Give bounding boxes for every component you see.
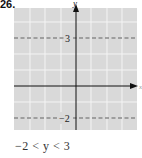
inequality-caption: −2 < y < 3 <box>15 139 70 154</box>
y-axis-label: y <box>72 0 77 8</box>
label-3: 3 <box>65 33 70 44</box>
label-neg2: −2 <box>59 113 70 124</box>
coordinate-plane: 3 −2 y x <box>0 0 142 135</box>
x-axis-label: x <box>138 83 142 91</box>
